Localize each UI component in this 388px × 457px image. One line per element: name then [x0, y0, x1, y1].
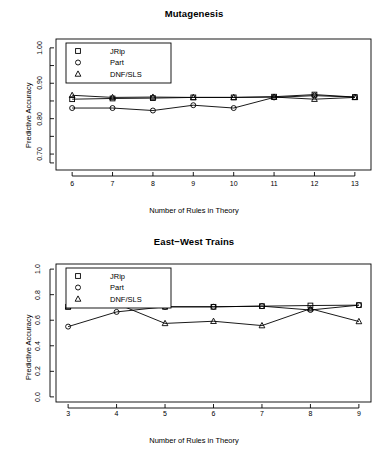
plot-area: JRipPartDNF/SLS [0, 0, 388, 228]
legend-label-part: Part [110, 58, 125, 67]
chart-panel-mutagenesis: MutagenesisPredictive AccuracyNumber of … [0, 0, 388, 228]
chart-panel-east-west-trains: East−West TrainsPredictive AccuracyNumbe… [0, 228, 388, 456]
legend-label-dnf-sls: DNF/SLS [110, 295, 142, 304]
legend-label-dnf-sls: DNF/SLS [110, 70, 142, 79]
legend-label-jrip: JRip [110, 47, 125, 56]
legend-label-part: Part [110, 283, 125, 292]
plot-area: JRipPartDNF/SLS [0, 228, 388, 456]
legend-label-jrip: JRip [110, 272, 125, 281]
